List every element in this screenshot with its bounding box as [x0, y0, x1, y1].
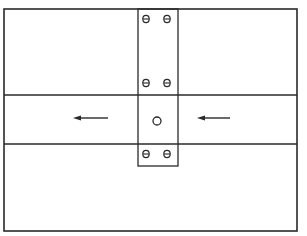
screw-icon — [164, 79, 170, 86]
diagram-canvas — [0, 0, 307, 236]
screw-icon — [164, 150, 170, 157]
screw-icon — [143, 150, 149, 157]
screw-icon — [164, 15, 170, 22]
screw-group — [143, 15, 170, 157]
outer-panel — [4, 9, 297, 231]
right-arrow-icon — [197, 115, 230, 120]
screw-icon — [143, 15, 149, 22]
vertical-strip — [138, 9, 178, 166]
arrow-group — [73, 115, 230, 120]
screw-icon — [143, 79, 149, 86]
left-arrow-icon — [73, 115, 108, 120]
diagram-svg — [0, 0, 307, 236]
center-hole-icon — [153, 117, 161, 125]
